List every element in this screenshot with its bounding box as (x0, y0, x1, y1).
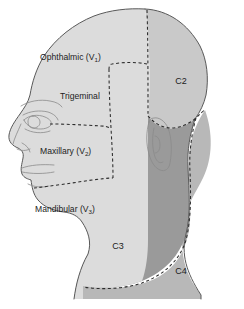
label-trigeminal: Trigeminal (60, 91, 100, 101)
label-trigeminal-main: Trigeminal (60, 91, 100, 101)
label-c3: C3 (112, 241, 124, 251)
label-mandibular-main: Mandibular (V (35, 204, 89, 214)
label-maxillary: Maxillary (V2) (40, 146, 91, 157)
head-dermatome-illustration: Ophthalmic (V1) Trigeminal Maxillary (V2… (0, 0, 244, 309)
label-mandibular: Mandibular (V3) (35, 204, 95, 215)
label-ophthalmic-main: Ophthalmic (V (40, 52, 95, 62)
label-c4: C4 (175, 266, 187, 276)
label-mandibular-closing: ) (92, 204, 95, 214)
label-c2: C2 (175, 76, 187, 86)
label-maxillary-closing: ) (88, 146, 91, 156)
dermatome-figure: Ophthalmic (V1) Trigeminal Maxillary (V2… (0, 0, 244, 309)
label-ophthalmic-closing: ) (98, 52, 101, 62)
label-maxillary-main: Maxillary (V (40, 146, 85, 156)
label-ophthalmic: Ophthalmic (V1) (40, 52, 101, 63)
